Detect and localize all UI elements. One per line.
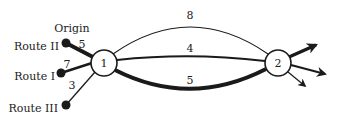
network-flow-diagram: 1 2 Origin Route II Route I Route III 5 … [0, 0, 343, 116]
weight-link-bottom: 5 [187, 74, 194, 87]
weight-route-iii: 3 [69, 79, 76, 92]
weight-route-ii: 5 [79, 38, 86, 51]
node-1-label: 1 [101, 57, 108, 70]
node-2: 2 [265, 50, 291, 76]
weight-route-i: 7 [64, 58, 71, 71]
route-ii-label: Route II [14, 40, 59, 53]
output-arrow-thin [288, 72, 305, 86]
link-middle [117, 56, 265, 61]
output-arrow-medium [291, 65, 325, 74]
route-i-label: Route I [14, 70, 55, 83]
output-arrow-thick [289, 45, 316, 57]
weight-link-top: 8 [187, 9, 194, 22]
route-iii-label: Route III [9, 102, 58, 115]
source-dot-route-ii [62, 39, 71, 48]
origin-label: Origin [54, 22, 89, 35]
weight-link-middle: 4 [187, 42, 194, 55]
source-dot-route-iii [62, 101, 71, 110]
node-2-label: 2 [275, 57, 282, 70]
node-1: 1 [91, 50, 117, 76]
